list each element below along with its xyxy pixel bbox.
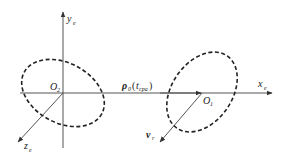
label-rho: ρ 0 ( t cpa ) — [121, 80, 152, 92]
ellipse-right — [152, 39, 252, 145]
svg-text:1: 1 — [210, 101, 213, 107]
svg-text:): ) — [149, 80, 152, 92]
diagram-canvas: y e x e z e O 2 O 1 ρ 0 ( t cpa ) v r — [0, 0, 287, 155]
svg-text:ρ: ρ — [121, 80, 127, 91]
label-velocity: v r — [146, 129, 155, 141]
svg-text:v: v — [146, 129, 151, 140]
svg-text:cpa: cpa — [139, 86, 148, 92]
z-axis — [18, 93, 63, 142]
svg-text:e: e — [73, 20, 76, 26]
svg-text:2: 2 — [57, 87, 60, 93]
svg-text:r: r — [152, 135, 155, 141]
velocity-vector — [160, 93, 202, 142]
label-origin-left: O 2 — [50, 81, 60, 93]
svg-text:0: 0 — [128, 86, 131, 92]
svg-text:x: x — [257, 78, 263, 89]
svg-text:e: e — [29, 147, 32, 153]
svg-text:z: z — [23, 140, 28, 151]
label-origin-right: O 1 — [203, 95, 213, 107]
label-x-axis: x e — [257, 78, 267, 91]
label-z-axis: z e — [23, 140, 32, 153]
svg-text:e: e — [264, 85, 267, 91]
label-y-axis: y e — [66, 13, 76, 26]
svg-text:y: y — [66, 13, 72, 24]
